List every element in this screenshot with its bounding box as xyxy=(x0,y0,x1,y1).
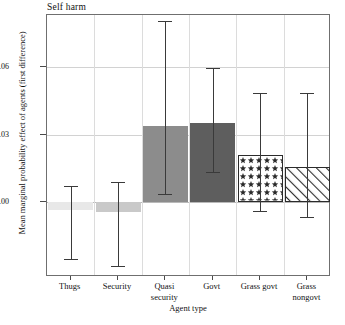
error-bar-grass-govt xyxy=(260,93,261,212)
panel-title: Self harm xyxy=(47,2,86,12)
y-tick-mark xyxy=(40,201,46,202)
x-tick-mark xyxy=(70,276,71,280)
y-tick-mark xyxy=(40,134,46,135)
error-cap-lower xyxy=(64,259,78,260)
x-tick-line: Quasi xyxy=(154,281,174,291)
gridline-x xyxy=(284,15,285,275)
error-cap-upper xyxy=(64,186,78,187)
y-tick-label: 0.00 xyxy=(0,197,9,206)
y-tick-mark xyxy=(40,66,46,67)
error-bar-security xyxy=(118,182,119,266)
x-tick-line: security xyxy=(151,292,178,302)
x-tick-line: Grass xyxy=(297,281,316,291)
error-cap-lower xyxy=(111,266,125,267)
y-tick-label: 0.03 xyxy=(0,129,9,138)
y-tick-label: 0.06 xyxy=(0,62,9,71)
x-tick-line: Govt xyxy=(203,281,220,291)
error-cap-upper xyxy=(253,93,267,94)
error-cap-upper xyxy=(300,93,314,94)
error-bar-thugs xyxy=(71,186,72,260)
gridline-y xyxy=(47,135,329,136)
x-tick-mark xyxy=(259,276,260,280)
x-tick-mark xyxy=(164,276,165,280)
x-tick-label-grass-nongovt: Grassnongovt xyxy=(276,281,336,302)
error-cap-lower xyxy=(158,194,172,195)
chart-figure: Self harm Mean marginal probability effe… xyxy=(0,0,345,325)
x-tick-mark xyxy=(306,276,307,280)
x-tick-line: Grass govt xyxy=(241,281,278,291)
y-axis-label: Mean marginal probability effect of agen… xyxy=(17,13,27,253)
x-tick-mark xyxy=(212,276,213,280)
x-tick-line: Security xyxy=(103,281,131,291)
gridline-y xyxy=(47,67,329,68)
error-cap-lower xyxy=(300,217,314,218)
error-bar-grass-nongovt xyxy=(307,93,308,217)
x-tick-mark xyxy=(117,276,118,280)
x-tick-line: nongovt xyxy=(292,292,320,302)
error-cap-upper xyxy=(206,68,220,69)
error-bar-quasi-security xyxy=(165,21,166,194)
plot-area xyxy=(46,14,330,276)
error-cap-lower xyxy=(253,211,267,212)
error-cap-lower xyxy=(206,172,220,173)
x-axis-label: Agent type xyxy=(46,303,330,313)
error-bar-govt xyxy=(213,68,214,172)
gridline-x xyxy=(94,15,95,275)
error-cap-upper xyxy=(158,21,172,22)
x-tick-line: Thugs xyxy=(59,281,80,291)
gridline-x xyxy=(236,15,237,275)
error-cap-upper xyxy=(111,182,125,183)
